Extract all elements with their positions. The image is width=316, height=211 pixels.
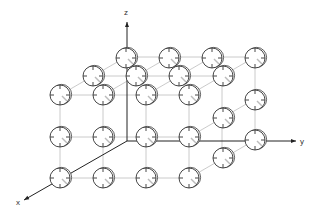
atom-sphere-icon (213, 65, 235, 86)
atom-sphere-icon (159, 47, 181, 68)
atom-sphere-icon (93, 84, 115, 105)
x-axis-label: x (16, 198, 20, 207)
atom-sphere-icon (93, 167, 115, 188)
atom-sphere-icon (83, 65, 105, 86)
atom-sphere-icon (136, 126, 158, 147)
y-axis-label: y (300, 137, 304, 146)
z-axis-arrow-icon (125, 22, 129, 27)
z-axis-label: z (124, 8, 128, 17)
atom-sphere-icon (245, 89, 267, 110)
atom-sphere-icon (50, 167, 72, 188)
atom-sphere-icon (136, 84, 158, 105)
atom-sphere-icon (50, 126, 72, 147)
atom-sphere-icon (213, 107, 235, 128)
atom-sphere-icon (179, 126, 201, 147)
atom-sphere-icon (126, 65, 148, 86)
atom-sphere-icon (245, 129, 267, 150)
atom-sphere-icon (136, 167, 158, 188)
atom-sphere-icon (179, 84, 201, 105)
cubic-lattice-diagram: x y z (0, 0, 316, 211)
atom-sphere-icon (245, 47, 267, 68)
atom-sphere-icon (202, 47, 224, 68)
atom-sphere-icon (93, 126, 115, 147)
atom-sphere-icon (50, 84, 72, 105)
atom-sphere-icon (116, 47, 138, 68)
y-axis-arrow-icon (291, 139, 296, 143)
atom-sphere-icon (169, 65, 191, 86)
atom-sphere-icon (213, 147, 235, 168)
x-axis-arrow-icon (24, 196, 29, 200)
atom-sphere-icon (179, 167, 201, 188)
